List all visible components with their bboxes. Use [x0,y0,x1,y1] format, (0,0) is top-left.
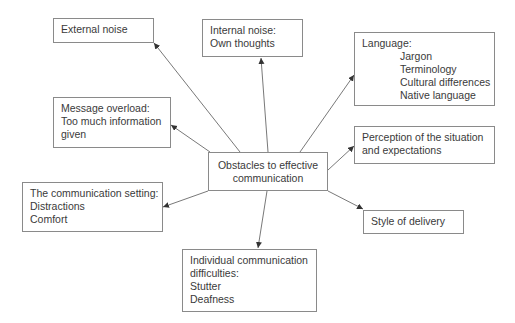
node-text: Message overload: [61,102,163,115]
node-text: External noise [61,23,146,36]
language-item: Terminology [362,63,487,76]
language-item: Cultural differences [362,76,487,89]
node-text: Own thoughts [210,37,295,50]
arrow-to-language [300,75,354,152]
arrow-to-message-overload [171,125,210,152]
node-text: and expectations [362,144,487,157]
center-text: Obstacles to effective [216,159,320,172]
node-text: Stutter [190,280,309,293]
node-text: Distractions [30,200,155,213]
center-text: communication [216,172,320,185]
language-item: Native language [362,89,487,102]
arrow-to-style-of-delivery [328,191,363,209]
node-text: Deafness [190,293,309,306]
node-internal-noise: Internal noise: Own thoughts [202,19,303,57]
node-text: Individual communication [190,254,309,267]
node-text: Comfort [30,213,155,226]
node-text: Perception of the situation [362,131,487,144]
node-communication-setting: The communication setting: Distractions … [22,182,163,232]
node-title: Language: [362,37,487,50]
node-individual-difficulties: Individual communication difficulties: S… [182,249,317,312]
node-text: Style of delivery [371,215,456,228]
node-text: difficulties: [190,267,309,280]
arrow-to-individual-difficulties [258,191,267,248]
arrow-to-perception [328,146,354,170]
node-text: The communication setting: [30,187,155,200]
node-center-obstacles: Obstacles to effective communication [208,152,328,191]
language-item: Jargon [362,50,487,63]
node-text: given [61,128,163,141]
node-text: Too much information [61,115,163,128]
arrow-to-communication-setting [163,191,208,207]
node-language: Language: Jargon Terminology Cultural di… [354,32,495,106]
node-style-of-delivery: Style of delivery [363,210,464,234]
node-external-noise: External noise [53,18,154,43]
node-message-overload: Message overload: Too much information g… [53,97,171,148]
node-perception: Perception of the situation and expectat… [354,126,495,164]
arrow-to-internal-noise [261,58,268,152]
node-text: Internal noise: [210,24,295,37]
